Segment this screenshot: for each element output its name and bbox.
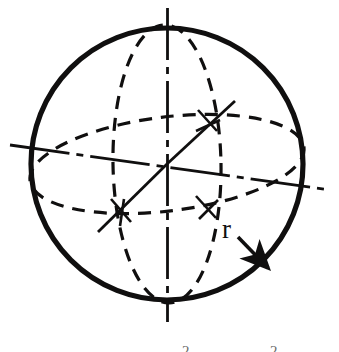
sphere-figure: r 2 2 [0, 0, 339, 352]
radius-arrow [238, 237, 268, 268]
cropped-superscript-glyph-2: 2 [270, 344, 278, 352]
sphere-body [10, 8, 330, 322]
oblique-axis-ne [167, 101, 235, 164]
cropped-superscript-glyph-1: 2 [182, 344, 190, 352]
oblique-axis-sw [98, 164, 167, 232]
sphere-diagram-canvas [0, 0, 339, 352]
equatorial-axis [10, 145, 330, 190]
radius-label: r [222, 216, 231, 243]
intersection-tick-se [196, 196, 218, 219]
